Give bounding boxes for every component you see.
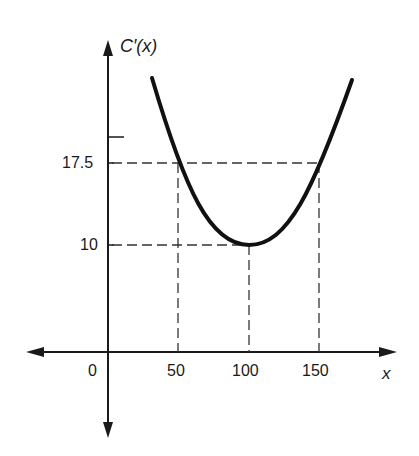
y-axis-arrow-down-icon (103, 422, 113, 438)
x-axis-arrow-left-icon (26, 347, 44, 357)
x-axis-label: x (382, 364, 391, 384)
x-axis-arrow-right-icon (379, 347, 397, 357)
dashed-guides (112, 163, 319, 352)
x-tick-label-150: 150 (302, 362, 329, 380)
derivative-curve (152, 78, 352, 245)
y-axis-label: C′(x) (120, 36, 157, 57)
y-axis-arrow-up-icon (103, 40, 113, 56)
x-tick-label-100: 100 (232, 362, 259, 380)
x-tick-label-50: 50 (167, 362, 185, 380)
y-tick-label-10: 10 (80, 236, 98, 254)
y-tick-label-17-5: 17.5 (62, 154, 93, 172)
chart-canvas (0, 0, 419, 456)
origin-label: 0 (88, 362, 97, 380)
